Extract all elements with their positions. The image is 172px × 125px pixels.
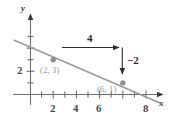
x-tick-label-8: 8 bbox=[143, 103, 149, 114]
rise-annotation-label: −2 bbox=[127, 55, 139, 66]
graph-figure: y x 2 2 4 6 8 (2, 3) (6, 1) 4 −2 bbox=[0, 0, 172, 125]
y-tick-label-2: 2 bbox=[17, 65, 23, 76]
y-axis-label: y bbox=[21, 4, 25, 13]
run-annotation-label: 4 bbox=[87, 33, 93, 44]
data-point-1 bbox=[51, 57, 56, 62]
x-tick-label-6: 6 bbox=[96, 103, 102, 114]
data-point-2 bbox=[120, 80, 125, 85]
plotted-line bbox=[14, 40, 160, 103]
point-label-2-3: (2, 3) bbox=[40, 66, 60, 75]
x-tick-label-4: 4 bbox=[73, 103, 79, 114]
y-axis bbox=[27, 14, 35, 105]
point-label-6-1: (6, 1) bbox=[97, 85, 117, 94]
x-tick-label-2: 2 bbox=[50, 103, 56, 114]
x-axis-label: x bbox=[159, 99, 164, 108]
